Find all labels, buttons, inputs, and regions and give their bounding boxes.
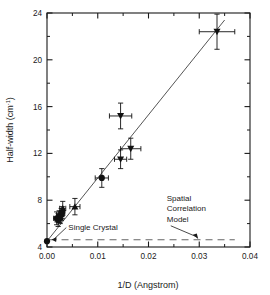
x-axis-label: 1/D (Angstrom) (117, 280, 178, 290)
x-tick-label: 0.04 (242, 252, 258, 261)
y-axis-label-tail: ) (5, 97, 15, 100)
y-tick-label: 20 (33, 56, 43, 65)
y-axis-label-main: Half-width (cm (5, 105, 15, 163)
y-axis-label: Half-width (cm-1) (5, 97, 15, 163)
annotation-spatial-correlation-model-line2: Correlation (167, 204, 206, 213)
x-tick-label: 0.02 (141, 252, 157, 261)
y-tick-label: 8 (37, 196, 42, 205)
annotation-spatial-correlation-model-line3: Model (167, 215, 189, 224)
marker-circle (99, 175, 105, 181)
y-tick-label: 12 (33, 149, 43, 158)
y-tick-label: 16 (33, 103, 43, 112)
x-tick-label: 0.03 (191, 252, 207, 261)
marker-circle (44, 238, 50, 244)
annotation-single-crystal: Single Crystal (68, 223, 118, 232)
y-tick-label: 24 (33, 9, 43, 18)
x-tick-label: 0.01 (90, 252, 106, 261)
x-tick-label: 0.00 (39, 252, 55, 261)
y-tick-label: 4 (37, 243, 42, 252)
annotation-spatial-correlation-model-line1: Spatial (167, 194, 192, 203)
scatter-plot: 0.000.010.020.030.04 4812162024 Single C… (0, 0, 270, 295)
figure-container: 0.000.010.020.030.04 4812162024 Single C… (0, 0, 270, 295)
marker-circle (59, 209, 65, 215)
svg-text:Half-width (cm-1): Half-width (cm-1) (5, 97, 15, 163)
